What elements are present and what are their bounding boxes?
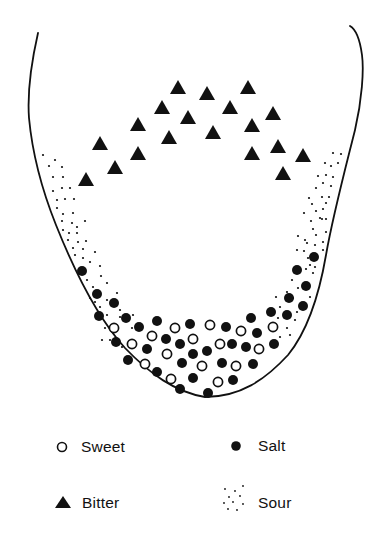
sour-dot xyxy=(289,334,291,336)
bitter-triangle xyxy=(295,148,311,162)
salt-dot xyxy=(309,252,319,262)
salt-dot xyxy=(161,334,171,344)
sour-dot xyxy=(332,176,334,178)
sour-dot xyxy=(328,196,330,198)
sour-dot xyxy=(309,264,311,266)
salt-dot xyxy=(269,339,279,349)
sour-dot xyxy=(325,202,327,204)
sour-dot xyxy=(297,235,299,237)
bitter-triangle xyxy=(205,125,221,139)
sour-dot xyxy=(330,165,332,167)
salt-dot xyxy=(266,307,276,317)
sour-dot xyxy=(305,268,307,270)
salt-dot xyxy=(282,310,292,320)
sour-dot xyxy=(131,327,133,329)
sour-dot xyxy=(77,241,79,243)
sour-dot xyxy=(56,207,58,209)
sour-dot xyxy=(86,279,88,281)
sweet-circle xyxy=(127,339,136,348)
salt-dot xyxy=(92,289,102,299)
sour-dot xyxy=(311,203,313,205)
sour-dot xyxy=(315,210,317,212)
sour-dot xyxy=(64,198,66,200)
sour-dot xyxy=(71,222,73,224)
salt-dot xyxy=(175,384,185,394)
sour-dot xyxy=(85,240,87,242)
sour-dot xyxy=(89,261,91,263)
sour-dot xyxy=(68,232,70,234)
sour-dot xyxy=(61,166,63,168)
sour-dot xyxy=(106,282,108,284)
sour-dot xyxy=(317,175,319,177)
sour-dot xyxy=(104,327,106,329)
salt-dot xyxy=(227,339,237,349)
sweet-circle xyxy=(166,374,175,383)
legend-label-sour: Sour xyxy=(258,494,292,512)
bitter-region xyxy=(78,80,311,186)
sour-dot xyxy=(275,296,277,298)
salt-dot xyxy=(175,339,185,349)
legend-label-salt: Salt xyxy=(258,437,286,455)
sour-dot xyxy=(325,218,327,220)
sweet-legend-icon xyxy=(58,443,67,452)
salt-dot xyxy=(77,266,87,276)
sour-dot xyxy=(62,229,64,231)
salt-dot xyxy=(203,388,213,398)
sour-dot xyxy=(303,212,305,214)
bitter-triangle xyxy=(244,118,260,132)
sour-dot xyxy=(56,199,58,201)
sour-dot xyxy=(340,153,342,155)
bitter-triangle xyxy=(161,130,177,144)
sour-dot xyxy=(52,176,54,178)
sour-dot xyxy=(322,241,324,243)
salt-dot xyxy=(188,373,198,383)
salt-dot xyxy=(228,375,238,385)
sour-dot xyxy=(304,239,306,241)
sour-dot xyxy=(315,234,317,236)
salt-dot xyxy=(123,355,133,365)
sour-dot xyxy=(303,250,305,252)
sour-dot xyxy=(116,292,118,294)
legend-label-bitter: Bitter xyxy=(82,494,119,512)
sour-dot xyxy=(279,306,281,308)
sweet-circle xyxy=(162,349,171,358)
sour-dot xyxy=(100,275,102,277)
salt-dot xyxy=(248,359,258,369)
sour-dot xyxy=(321,218,323,220)
sour-dot xyxy=(99,265,101,267)
salt-dot xyxy=(217,358,227,368)
sour-legend-icon xyxy=(223,485,244,511)
bitter-triangle xyxy=(244,146,260,160)
bitter-triangle xyxy=(107,160,123,174)
salt-dot xyxy=(185,319,195,329)
sour-dot xyxy=(99,306,101,308)
sour-dot xyxy=(309,296,311,298)
sweet-circle xyxy=(236,326,245,335)
sour-dot xyxy=(74,254,76,256)
tongue-taste-diagram xyxy=(0,0,375,534)
bitter-triangle xyxy=(240,80,256,94)
sweet-circle xyxy=(197,361,206,370)
salt-dot xyxy=(142,344,152,354)
sweet-circle xyxy=(188,334,197,343)
sour-dot xyxy=(312,228,314,230)
sour-dot xyxy=(106,299,108,301)
sour-dot xyxy=(52,190,54,192)
sour-dot xyxy=(325,231,327,233)
sour-dot xyxy=(92,286,94,288)
sour-dot xyxy=(277,317,279,319)
salt-dot xyxy=(134,322,144,332)
bitter-triangle xyxy=(275,166,291,180)
sweet-circle xyxy=(231,361,240,370)
sour-dot xyxy=(132,314,134,316)
salt-dot xyxy=(188,349,198,359)
sour-dot xyxy=(294,319,296,321)
sour-dot xyxy=(312,272,314,274)
salt-dot xyxy=(109,298,119,308)
sour-dot xyxy=(296,311,298,313)
sour-dot xyxy=(319,217,321,219)
sour-dot xyxy=(109,339,111,341)
sour-dot xyxy=(73,198,75,200)
bitter-triangle xyxy=(222,100,238,114)
legend-label-sweet: Sweet xyxy=(81,438,125,456)
